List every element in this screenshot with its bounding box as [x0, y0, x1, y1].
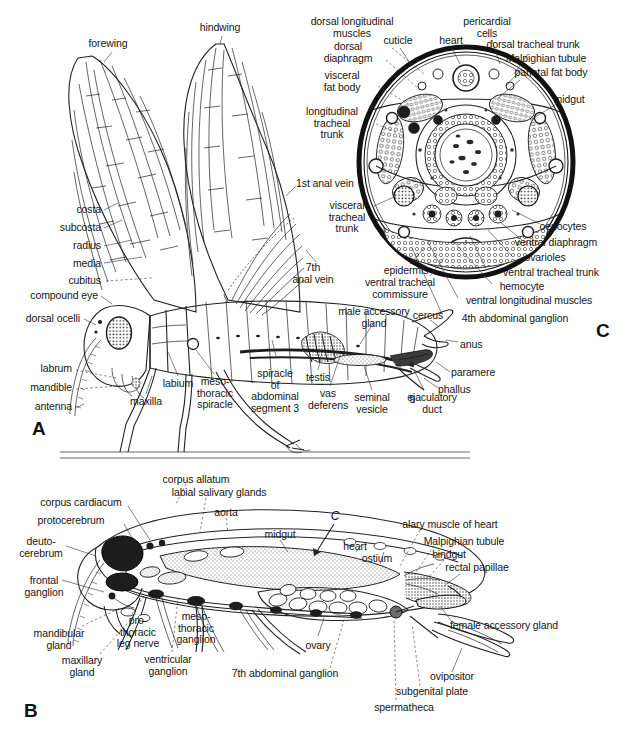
label-deutocerebrum: deuto- cerebrum — [19, 536, 63, 559]
label-frontal-ganglion: frontal ganglion — [25, 575, 64, 598]
label-seventh-anal-vein: 7th anal vein — [292, 262, 333, 285]
label-ventral-tracheal-commissure: ventral tracheal commissure — [365, 277, 435, 300]
label-subgenital-plate: subgenital plate — [396, 686, 468, 698]
label-dorsal-ocelli: dorsal ocelli — [26, 313, 80, 325]
label-labium: labium — [163, 378, 193, 390]
label-mandible: mandible — [30, 382, 72, 394]
hindwing-shape — [184, 44, 304, 315]
label-protocerebrum: protocerebrum — [38, 515, 105, 527]
label-paramere: paramere — [451, 367, 495, 379]
label-corpus-allatum: corpus allatum — [163, 474, 230, 486]
ovary — [258, 583, 408, 620]
label-section-marker-c: C — [331, 511, 340, 523]
label-pericardial-cells: pericardial cells — [463, 16, 510, 39]
label-forewing: forewing — [89, 38, 128, 50]
label-longitudinal-tracheal-trunk: longitudinal tracheal trunk — [306, 106, 358, 141]
label-testis: testis — [306, 372, 330, 384]
panel-letter-c: C — [596, 320, 610, 342]
label-phallus: phallus — [438, 384, 471, 396]
label-seminal-vesicle: seminal vesicle — [354, 392, 389, 415]
label-parietal-fat-body: parietal fat body — [514, 67, 587, 79]
label-hindgut: hindgut — [432, 549, 466, 561]
label-segment-9: 9 — [409, 394, 415, 406]
label-seventh-abdominal-ganglion: 7th abdominal ganglion — [232, 668, 338, 680]
label-visceral-tracheal-trunk: visceral tracheal trunk — [329, 200, 366, 235]
label-midgut-c: midgut — [554, 94, 585, 106]
label-compound-eye: compound eye — [30, 290, 98, 302]
label-ventral-tracheal-trunk: ventral tracheal trunk — [503, 267, 599, 279]
label-spiracle-abdominal-segment-3: spiracle of abdominal segment 3 — [251, 368, 299, 414]
label-male-accessory-gland: male accessory gland — [338, 306, 410, 329]
label-maxillary-gland: maxillary gland — [62, 655, 103, 678]
label-cubitus: cubitus — [68, 275, 101, 287]
label-female-accessory-gland: female accessory gland — [450, 620, 558, 632]
label-hindwing: hindwing — [200, 22, 241, 34]
label-alary-muscle-of-heart: alary muscle of heart — [402, 519, 497, 531]
label-dorsal-tracheal-trunk: dorsal tracheal trunk — [486, 39, 579, 51]
panel-letter-b: B — [24, 700, 38, 722]
label-corpus-cardiacum: corpus cardiacum — [40, 497, 121, 509]
label-spermatheca: spermatheca — [374, 702, 434, 714]
label-hemocyte: hemocyte — [500, 281, 545, 293]
label-fourth-abdominal-ganglion: 4th abdominal ganglion — [462, 313, 568, 325]
label-dorsal-longitudinal-muscles: dorsal longitudinal muscles — [311, 16, 394, 39]
label-costa: costa — [76, 204, 101, 216]
label-mesothoracic-ganglion: meso- thoracic ganglion — [177, 611, 216, 646]
label-mesothoracic-spiracle: meso- thoracic spiracle — [197, 376, 233, 411]
label-dorsal-diaphragm: dorsal diaphragm — [324, 41, 373, 64]
label-ovarioles: ovarioles — [524, 252, 565, 264]
panel-letter-a: A — [32, 418, 46, 440]
label-media: media — [73, 258, 101, 270]
label-vas-deferens: vas deferens — [308, 388, 348, 411]
label-oenocytes: oenocytes — [540, 221, 587, 233]
label-subcosta: subcosta — [60, 222, 101, 234]
label-heart: heart — [439, 35, 462, 47]
label-rectal-papillae: rectal papillae — [445, 562, 508, 574]
label-radius: radius — [73, 240, 101, 252]
label-heart-b: heart — [343, 541, 366, 553]
label-maxilla: maxilla — [130, 396, 162, 408]
label-antenna: antenna — [35, 401, 72, 413]
label-anus: anus — [460, 339, 482, 351]
label-cuticle: cuticle — [383, 35, 412, 47]
label-prothoracic-leg-nerve: pro- thoracic leg nerve — [117, 615, 159, 650]
label-epidermis: epidermis — [384, 265, 429, 277]
label-ovipositor: ovipositor — [430, 671, 474, 683]
label-ostium: ostium — [362, 553, 392, 565]
anatomical-figure: forewing hindwing costa subcosta radius … — [0, 0, 637, 734]
label-malpighian-tubule-b: Malpighian tubule — [424, 536, 505, 548]
label-midgut-b: midgut — [265, 529, 296, 541]
label-aorta: aorta — [214, 507, 237, 519]
label-ovary: ovary — [305, 640, 330, 652]
label-ventricular-ganglion: ventricular ganglion — [144, 654, 191, 677]
label-ventral-longitudinal-muscles: ventral longitudinal muscles — [466, 295, 592, 307]
label-ventral-diaphragm: ventral diaphragm — [515, 237, 597, 249]
label-cercus: cercus — [413, 310, 443, 322]
label-first-anal-vein: 1st anal vein — [296, 178, 354, 190]
label-visceral-fat-body: visceral fat body — [324, 70, 361, 93]
label-mandibular-gland: mandibular gland — [34, 628, 85, 651]
label-malpighian-tubule-c: Malpighian tubule — [506, 53, 587, 65]
label-labrum: labrum — [41, 363, 73, 375]
label-labial-salivary-glands: labial salivary glands — [172, 487, 267, 499]
